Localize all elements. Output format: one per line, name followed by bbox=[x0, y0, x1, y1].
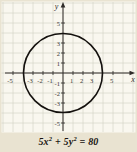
y-tick-label: 1 bbox=[57, 60, 60, 67]
x-tick-label: -3 bbox=[27, 77, 32, 84]
equation: 5x2 + 5y2 = 80 bbox=[0, 133, 137, 152]
y-tick-label: 2 bbox=[57, 50, 60, 57]
y-tick-label: -2 bbox=[55, 90, 60, 97]
y-axis-label: y bbox=[54, 2, 59, 11]
x-tick-label: 1 bbox=[70, 77, 73, 84]
x-tick-label: -1 bbox=[47, 77, 52, 84]
x-tick-label: 2 bbox=[80, 77, 83, 84]
x-tick-label: -2 bbox=[37, 77, 42, 84]
x-tick-label: 3 bbox=[90, 77, 93, 84]
y-tick-label: -1 bbox=[55, 80, 60, 87]
x-axis-label: x bbox=[130, 75, 135, 84]
equation-term-3: = 80 bbox=[77, 136, 99, 147]
y-tick-label: -3 bbox=[55, 100, 60, 107]
math-figure: -5-3-2-112355321-1-2-3-5xy 5x2 + 5y2 = 8… bbox=[0, 0, 137, 152]
x-tick-label: 5 bbox=[110, 77, 113, 84]
y-tick-label: -5 bbox=[55, 120, 60, 127]
x-tick-label: -5 bbox=[7, 77, 12, 84]
y-tick-label: 5 bbox=[57, 20, 60, 27]
equation-term-2: + 5y bbox=[52, 136, 73, 147]
equation-term-1: 5x bbox=[38, 136, 48, 147]
y-tick-label: 3 bbox=[57, 40, 60, 47]
coordinate-plane-graph: -5-3-2-112355321-1-2-3-5xy bbox=[0, 0, 137, 133]
